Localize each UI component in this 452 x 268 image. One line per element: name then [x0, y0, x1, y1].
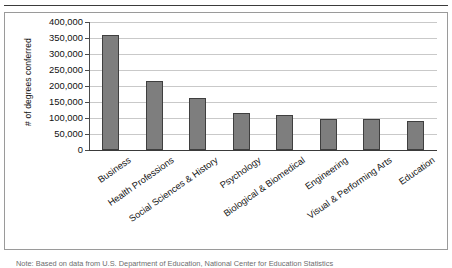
x-axis-category-label: Business: [96, 155, 133, 185]
y-axis-tick-label: 350,000: [21, 33, 83, 42]
bar: [276, 115, 293, 150]
y-axis-tick-label: 50,000: [21, 129, 83, 138]
figure-footnote: Note: Based on data from U.S. Department…: [16, 259, 446, 268]
gridline: [89, 102, 437, 103]
gridline: [89, 22, 437, 23]
x-axis-category-label: Visual & Performing Arts: [305, 155, 393, 221]
gridline: [89, 86, 437, 87]
y-axis-tick-label: 250,000: [21, 65, 83, 74]
bar: [320, 119, 337, 150]
top-horizontal-rule: [4, 5, 448, 6]
bar: [363, 119, 380, 150]
plot-area: 400,000350,000300,000250,000200,000150,0…: [89, 22, 437, 150]
gridline: [89, 70, 437, 71]
gridline: [89, 118, 437, 119]
bar: [102, 35, 119, 150]
y-axis-tick-label: 150,000: [21, 97, 83, 106]
x-axis-category-label: Biological & Biomedical: [222, 155, 307, 219]
x-axis-category-label: Social Sciences & History: [127, 155, 220, 224]
gridline: [89, 134, 437, 135]
bar: [407, 121, 424, 150]
bar: [189, 98, 206, 150]
y-axis-tick-label: 300,000: [21, 49, 83, 58]
y-axis-tick-label: 400,000: [21, 17, 83, 26]
x-axis-line: [89, 150, 437, 151]
y-axis-tick-label: 100,000: [21, 113, 83, 122]
y-axis-line: [89, 22, 90, 150]
chart-figure: # of degrees conferred 400,000350,000300…: [4, 12, 448, 250]
gridline: [89, 54, 437, 55]
bar: [146, 81, 163, 150]
gridline: [89, 38, 437, 39]
y-axis-tick-label: 0: [21, 145, 83, 154]
y-axis-tick-label: 200,000: [21, 81, 83, 90]
x-axis-category-label: Education: [397, 155, 437, 187]
bar: [233, 113, 250, 150]
